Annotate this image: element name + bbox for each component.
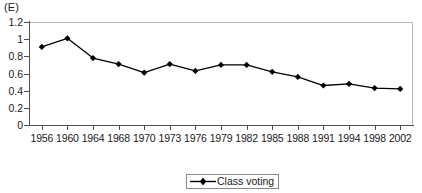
y-axis-label: 1 xyxy=(0,34,23,44)
plot-area xyxy=(29,22,413,125)
y-axis-label: 0 xyxy=(0,120,23,130)
legend-label: Class voting xyxy=(217,176,274,187)
y-axis-label: 0.8 xyxy=(0,51,23,61)
x-axis-tick xyxy=(221,125,222,130)
x-axis-tick xyxy=(67,125,68,130)
x-axis-label: 2002 xyxy=(383,133,417,144)
y-axis-tick xyxy=(24,22,29,23)
x-axis-tick xyxy=(272,125,273,130)
x-axis-tick xyxy=(170,125,171,130)
y-axis-label: 1.2 xyxy=(0,17,23,27)
legend-marker-icon xyxy=(190,176,216,187)
y-axis-label: 0.6 xyxy=(0,69,23,79)
panel-label: (E) xyxy=(4,1,19,13)
y-axis-tick xyxy=(24,125,29,126)
y-axis-tick xyxy=(24,108,29,109)
x-axis-tick xyxy=(400,125,401,130)
y-axis-label: 0.2 xyxy=(0,103,23,113)
y-axis-tick xyxy=(24,39,29,40)
y-axis-line xyxy=(29,21,30,126)
x-axis-tick xyxy=(349,125,350,130)
plot-frame-right-border xyxy=(412,22,413,125)
x-axis-tick xyxy=(323,125,324,130)
y-axis-tick xyxy=(24,56,29,57)
x-axis-tick xyxy=(93,125,94,130)
x-axis-tick xyxy=(298,125,299,130)
y-axis-label: 0.4 xyxy=(0,86,23,96)
chart-container: (E) 00.20.40.60.811.2 195619601964196819… xyxy=(0,0,422,193)
x-axis-tick xyxy=(247,125,248,130)
y-axis-tick xyxy=(24,74,29,75)
x-axis-tick xyxy=(144,125,145,130)
plot-frame-top-border xyxy=(29,22,413,23)
x-axis-tick xyxy=(375,125,376,130)
x-axis-tick xyxy=(42,125,43,130)
x-axis-tick xyxy=(195,125,196,130)
y-axis-tick xyxy=(24,91,29,92)
x-axis-tick xyxy=(119,125,120,130)
legend: Class voting xyxy=(186,174,279,189)
